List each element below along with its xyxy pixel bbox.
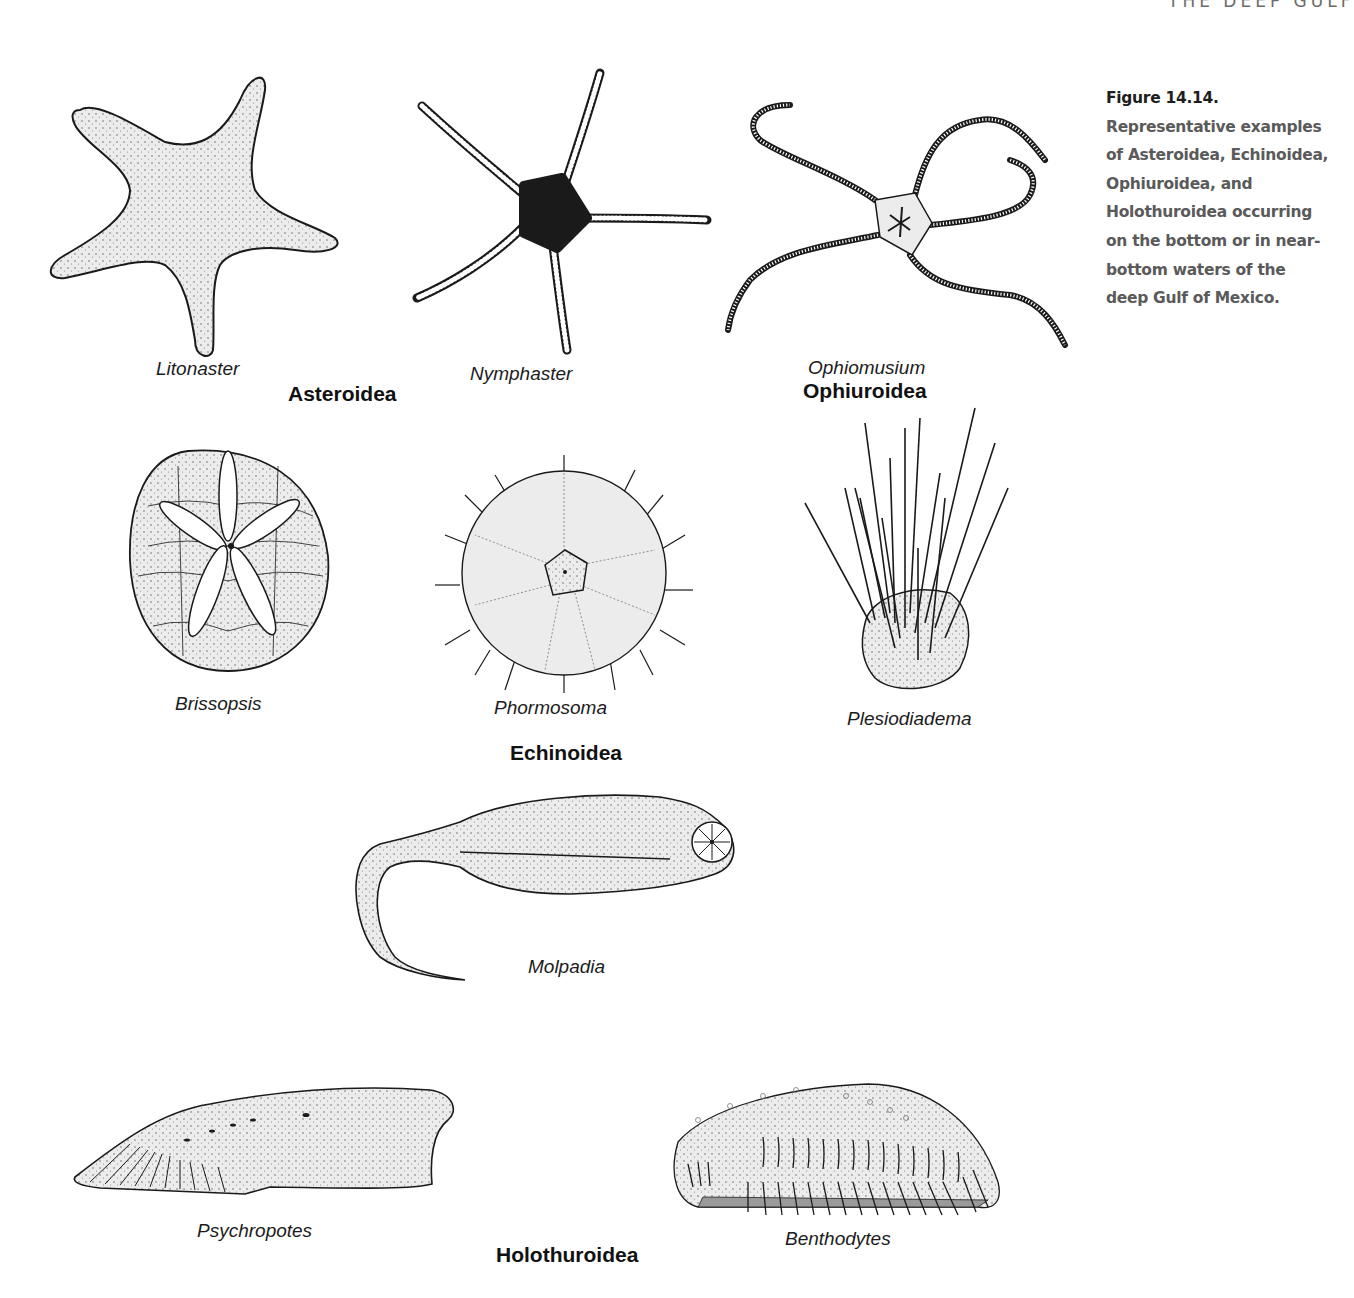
class-label-holothuroidea: Holothuroidea [496,1243,638,1267]
nymphaster-illustration [412,68,712,358]
psychropotes-illustration [70,1082,455,1197]
genus-label-nymphaster: Nymphaster [470,363,572,385]
phormosoma-illustration [435,455,693,693]
brissopsis-illustration [128,446,333,674]
genus-label-psychropotes: Psychropotes [197,1220,312,1242]
figure-number: Figure 14.14. [1106,84,1332,113]
genus-label-ophiomusium: Ophiomusium [808,357,925,379]
genus-label-phormosoma: Phormosoma [494,697,607,719]
figure-caption: Figure 14.14. Representative examples of… [1106,84,1332,313]
genus-label-plesiodiadema: Plesiodiadema [847,708,972,730]
plesiodiadema-illustration [800,398,1010,698]
class-label-echinoidea: Echinoidea [510,741,622,765]
genus-label-brissopsis: Brissopsis [175,693,262,715]
figure-caption-text: Representative examples of Asteroidea, E… [1106,118,1328,308]
litonaster-illustration [45,70,345,360]
running-head: THE DEEP GULF [1168,0,1354,11]
class-label-asteroidea: Asteroidea [288,382,397,406]
benthodytes-illustration [668,1082,1008,1222]
ophiomusium-illustration [720,95,1070,355]
molpadia-illustration [350,782,740,982]
genus-label-molpadia: Molpadia [528,956,605,978]
genus-label-benthodytes: Benthodytes [785,1228,891,1250]
genus-label-litonaster: Litonaster [156,358,239,380]
